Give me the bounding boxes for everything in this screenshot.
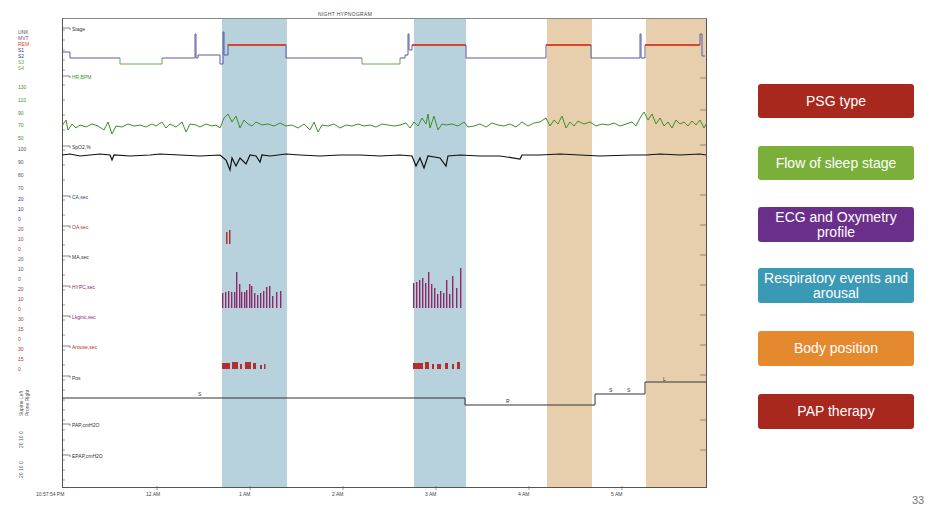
legend-respiratory-events: Respiratory events and arousal (758, 268, 914, 303)
track-label-pap: PAP,cmH2O (72, 422, 99, 428)
pos-annotation: S (627, 387, 630, 393)
track-label-oa: OA,sec (72, 224, 88, 230)
legend-pap-therapy: PAP therapy (758, 394, 914, 429)
hypnogram-chart: UNK MVT REM S1 S2 S3 S4 130 110 90 70 50… (0, 0, 720, 529)
track-label-lkg: Lkginc,sec (72, 314, 96, 320)
track-label-hypc: HYPC,sec (72, 284, 95, 290)
legend-body-position: Body position (758, 331, 914, 366)
track-label-spo2: SpO2,% (72, 144, 91, 150)
x-tick-label: 4 AM (518, 491, 529, 497)
track-label-ca: CA,sec (72, 194, 88, 200)
pos-annotation: R (506, 398, 510, 404)
legend-flow-of-sleep-stage: Flow of sleep stage (758, 146, 914, 180)
traces (0, 0, 720, 529)
track-label-stage: Stage (72, 26, 85, 32)
legend-psg-type: PSG type (758, 84, 914, 118)
pos-annotation: S (609, 387, 612, 393)
track-label-arouse: Arouse,sec (72, 344, 97, 350)
legend-ecg-oxymetry-profile: ECG and Oxymetry profile (758, 207, 914, 242)
x-tick-label: 3 AM (425, 491, 436, 497)
track-label-epap: EPAP,cmH2O (72, 453, 103, 459)
x-tick-label: 10:57:54 PM (36, 491, 64, 497)
x-tick-label: 1 AM (239, 491, 250, 497)
x-tick-label: 12 AM (146, 491, 160, 497)
x-tick-label: 2 AM (332, 491, 343, 497)
track-label-ma: MA,sec (72, 254, 89, 260)
page-number: 33 (912, 494, 924, 506)
pos-annotation: L (663, 376, 666, 382)
track-label-pos: Pos (72, 375, 81, 381)
track-label-hr: HR,BPM (72, 74, 91, 80)
pos-annotation: S (198, 391, 201, 397)
x-tick-label: 5 AM (611, 491, 622, 497)
